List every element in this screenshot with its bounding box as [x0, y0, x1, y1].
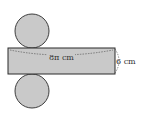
length-label: 8π cm	[49, 53, 74, 62]
bottom-circle-base	[15, 74, 49, 108]
height-label: 6 cm	[116, 57, 136, 66]
cylinder-net-diagram: 8π cm 6 cm	[0, 0, 144, 119]
top-circle-base	[15, 14, 49, 48]
